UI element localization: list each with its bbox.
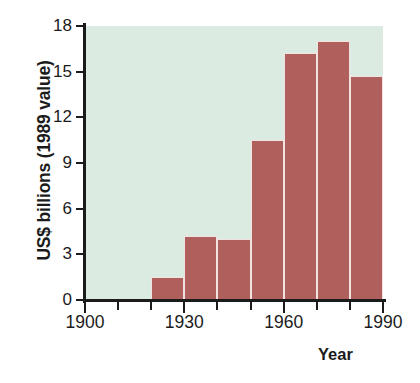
y-tick-15 (76, 71, 84, 73)
y-tick-label-6: 6 (12, 200, 72, 217)
y-tick-0 (76, 299, 84, 301)
y-tick-label-0: 0 (12, 291, 72, 308)
y-tick-label-9: 9 (12, 154, 72, 171)
x-axis-title: Year (318, 345, 353, 364)
x-tick-label-1900: 1900 (45, 313, 125, 332)
bar-1970 (317, 41, 350, 300)
x-tick-1910 (117, 302, 119, 310)
x-tick-label-1960: 1960 (244, 313, 324, 332)
y-tick-12 (76, 116, 84, 118)
x-tick-label-1990: 1990 (343, 313, 420, 332)
x-tick-label-1930: 1930 (144, 313, 224, 332)
y-tick-3 (76, 253, 84, 255)
x-tick-1920 (150, 302, 152, 310)
y-tick-label-15: 15 (12, 63, 72, 80)
bar-1920 (151, 277, 184, 300)
y-tick-18 (76, 25, 84, 27)
x-tick-1980 (349, 302, 351, 310)
x-tick-1970 (316, 302, 318, 310)
y-tick-label-18: 18 (12, 17, 72, 34)
plot-area (85, 26, 383, 300)
bar-1950 (251, 140, 284, 300)
y-tick-6 (76, 208, 84, 210)
bar-1930 (184, 236, 217, 300)
bar-1980 (350, 76, 383, 300)
y-tick-9 (76, 162, 84, 164)
x-axis-line (83, 299, 386, 302)
x-tick-1950 (250, 302, 252, 310)
bar-1960 (284, 53, 317, 300)
bar-1940 (217, 239, 250, 300)
y-tick-label-3: 3 (12, 245, 72, 262)
x-tick-1940 (216, 302, 218, 310)
y-tick-label-12: 12 (12, 108, 72, 125)
bar-chart-figure: US$ billions (1989 value) 0369121518 190… (0, 0, 420, 383)
